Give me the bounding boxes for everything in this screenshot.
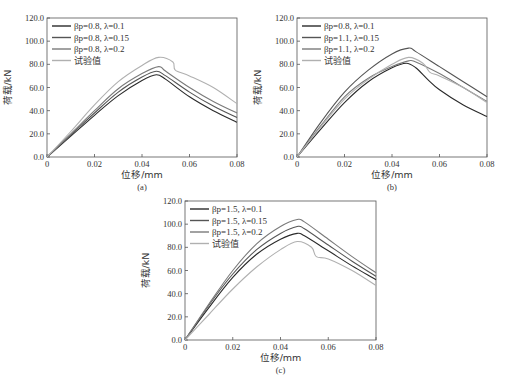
y-tick-label: 0.0 bbox=[33, 152, 44, 162]
x-tick-label: 0.04 bbox=[135, 159, 151, 169]
x-tick-label: 0.08 bbox=[480, 159, 495, 169]
chart-panel-a: 0.020.040.060.080.0100.0120.000.020.040.… bbox=[2, 13, 244, 192]
legend-label: 试验值 bbox=[74, 55, 101, 66]
y-tick-label: 60.0 bbox=[29, 83, 44, 93]
y-tick-label: 100.0 bbox=[275, 36, 294, 46]
series-line bbox=[185, 241, 376, 340]
legend-label: βp=1.5, λ=0.1 bbox=[212, 204, 263, 214]
series-line bbox=[47, 75, 237, 157]
y-tick-label: 20.0 bbox=[167, 312, 182, 322]
y-tick-label: 20.0 bbox=[279, 129, 294, 139]
y-tick-label: 40.0 bbox=[279, 106, 294, 116]
y-tick-label: 20.0 bbox=[29, 129, 44, 139]
legend-label: βp=0.8, λ=0.2 bbox=[74, 44, 125, 54]
y-axis-label: 荷载/kN bbox=[2, 70, 13, 106]
y-tick-label: 60.0 bbox=[167, 266, 182, 276]
x-tick-label: 0.06 bbox=[321, 342, 336, 352]
legend-label: βp=1.1, λ=0.2 bbox=[324, 44, 375, 54]
y-tick-label: 40.0 bbox=[167, 289, 182, 299]
series-line bbox=[297, 60, 487, 157]
y-tick-label: 80.0 bbox=[29, 59, 44, 69]
x-tick-label: 0 bbox=[45, 159, 49, 169]
x-tick-label: 0.04 bbox=[385, 159, 401, 169]
legend-label: 试验值 bbox=[212, 238, 239, 249]
y-tick-label: 0.0 bbox=[171, 335, 182, 345]
panel-caption: (c) bbox=[276, 365, 286, 375]
series-line bbox=[185, 219, 376, 340]
series-line bbox=[47, 71, 237, 157]
figure-canvas: 0.020.040.060.080.0100.0120.000.020.040.… bbox=[0, 0, 509, 387]
y-axis-label: 荷载/kN bbox=[252, 70, 263, 106]
x-axis-label: 位移/mm bbox=[371, 169, 413, 180]
x-tick-label: 0.02 bbox=[87, 159, 102, 169]
chart-panel-b: 0.020.040.060.080.0100.0120.000.020.040.… bbox=[252, 13, 494, 192]
x-tick-label: 0.08 bbox=[230, 159, 245, 169]
legend-label: βp=1.1, λ=0.15 bbox=[324, 33, 380, 43]
y-tick-label: 80.0 bbox=[167, 242, 182, 252]
y-axis-label: 荷载/kN bbox=[140, 253, 151, 289]
y-tick-label: 100.0 bbox=[163, 219, 182, 229]
y-tick-label: 100.0 bbox=[25, 36, 44, 46]
y-tick-label: 120.0 bbox=[275, 13, 294, 23]
x-tick-label: 0.02 bbox=[337, 159, 352, 169]
y-tick-label: 80.0 bbox=[279, 59, 294, 69]
panel-caption: (a) bbox=[137, 182, 147, 192]
panel-caption: (b) bbox=[387, 182, 397, 192]
x-axis-label: 位移/mm bbox=[260, 352, 302, 363]
chart-panel-c: 0.020.040.060.080.0100.0120.000.020.040.… bbox=[140, 196, 383, 375]
legend-label: βp=0.8, λ=0.15 bbox=[74, 33, 130, 43]
series-line bbox=[47, 57, 237, 157]
legend-label: 试验值 bbox=[324, 55, 351, 66]
x-axis-label: 位移/mm bbox=[121, 169, 163, 180]
series-line bbox=[297, 57, 487, 157]
y-tick-label: 0.0 bbox=[283, 152, 294, 162]
y-tick-label: 120.0 bbox=[25, 13, 44, 23]
series-line bbox=[297, 63, 487, 157]
legend-label: βp=0.8, λ=0.1 bbox=[74, 21, 125, 31]
legend-label: βp=1.5, λ=0.2 bbox=[212, 227, 263, 237]
x-tick-label: 0.02 bbox=[225, 342, 240, 352]
x-tick-label: 0.06 bbox=[432, 159, 447, 169]
x-tick-label: 0.06 bbox=[182, 159, 197, 169]
y-tick-label: 60.0 bbox=[279, 83, 294, 93]
y-tick-label: 120.0 bbox=[163, 196, 182, 206]
legend-label: βp=0.8, λ=0.1 bbox=[324, 21, 375, 31]
x-tick-label: 0.08 bbox=[369, 342, 384, 352]
x-tick-label: 0 bbox=[183, 342, 187, 352]
x-tick-label: 0 bbox=[295, 159, 299, 169]
legend-label: βp=1.5, λ=0.15 bbox=[212, 216, 268, 226]
y-tick-label: 40.0 bbox=[29, 106, 44, 116]
x-tick-label: 0.04 bbox=[273, 342, 289, 352]
